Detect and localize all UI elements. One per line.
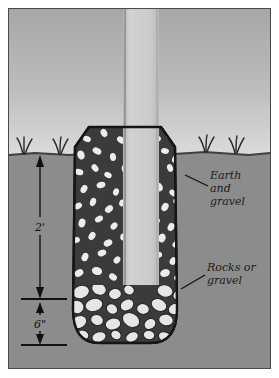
post: [123, 9, 159, 293]
label-earth-line3: gravel: [210, 195, 246, 208]
label-earth-line1: Earth: [209, 169, 241, 182]
label-rocks-line2: gravel: [207, 274, 243, 287]
figure-frame: 2' 6" Earth and gravel: [8, 8, 271, 369]
cross-section-illustration: 2' 6" Earth and gravel: [9, 9, 270, 368]
label-rocks-line1: Rocks or: [206, 261, 256, 274]
dimension-2ft-label: 2': [34, 221, 45, 234]
figure-canvas: 2' 6" Earth and gravel: [0, 0, 279, 378]
dimension-6in-label: 6": [34, 318, 46, 331]
label-earth-line2: and: [210, 182, 231, 195]
